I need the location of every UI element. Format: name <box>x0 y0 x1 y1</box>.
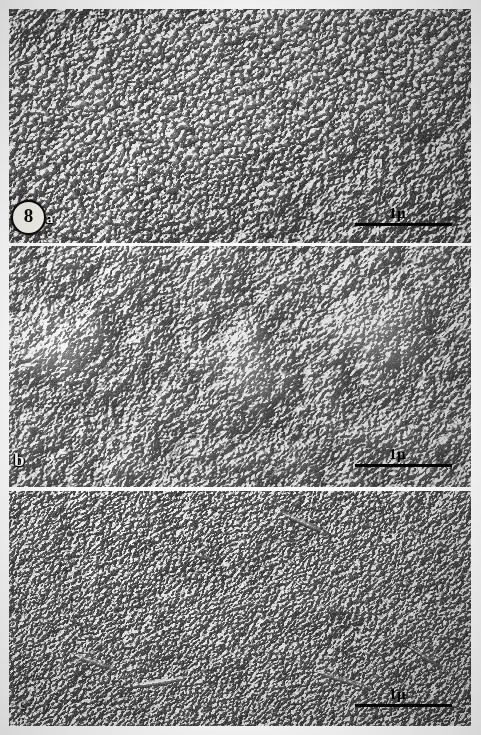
scale-bar-caption-a: 1μ <box>389 205 406 222</box>
scale-bar-caption-c: 1μ <box>389 686 406 703</box>
scale-bar-panel-c: 1μ <box>355 685 452 707</box>
figure-8: 8 a b c 1μ 1μ 1μ <box>0 0 481 735</box>
panel-label-c: c <box>18 694 26 714</box>
panel-label-b: b <box>14 449 25 471</box>
scale-bar-panel-a: 1μ <box>355 204 452 226</box>
scale-bar-line-b <box>355 464 452 468</box>
scale-bar-caption-b: 1μ <box>389 446 406 463</box>
panel-label-a: a <box>46 210 54 227</box>
scale-bar-line-c <box>355 704 452 708</box>
scale-bar-panel-b: 1μ <box>355 445 452 467</box>
scale-bar-line-a <box>355 223 452 227</box>
figure-number-badge: 8 <box>11 200 46 235</box>
